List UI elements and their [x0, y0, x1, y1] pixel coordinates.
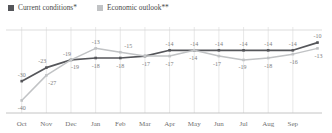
data-point-label: -17 [142, 61, 150, 67]
x-tick-label: Jul [239, 120, 247, 128]
data-point-label: -19 [71, 64, 79, 70]
x-tick-label: Sep [288, 120, 299, 128]
series-marker [316, 47, 319, 50]
x-tick-label: Apr [164, 120, 176, 128]
series-marker [119, 51, 122, 54]
x-tick-label: Oct [17, 120, 27, 128]
data-point-label: -19 [239, 64, 247, 70]
series-marker [20, 80, 23, 83]
series-marker [168, 49, 171, 52]
data-point-label: -23 [38, 58, 46, 64]
x-tick-label: Feb [115, 120, 126, 128]
data-point-label: -18 [92, 63, 100, 69]
x-tick-label: May [188, 120, 201, 128]
series-marker [119, 57, 122, 60]
data-point-label: -30 [18, 72, 26, 78]
data-point-label: -14 [215, 41, 223, 47]
data-point-label: -13 [92, 39, 100, 45]
data-point-label: -14 [190, 41, 198, 47]
series-marker [144, 55, 147, 58]
series-marker [292, 49, 295, 52]
data-point-label: -18 [264, 63, 272, 69]
data-point-label: -18 [116, 63, 124, 69]
data-point-label: -17 [166, 61, 174, 67]
x-tick-label: Aug [262, 120, 275, 128]
data-point-label: -40 [18, 105, 26, 111]
series-marker [193, 49, 196, 52]
series-marker [292, 53, 295, 56]
data-point-label: -14 [289, 41, 297, 47]
series-marker [168, 55, 171, 58]
x-tick-label: Dec [65, 120, 76, 128]
x-tick-label: Mar [139, 120, 151, 128]
series-marker [20, 99, 23, 102]
gridlines [22, 27, 293, 113]
series-marker [267, 49, 270, 52]
data-point-label: -14 [166, 41, 174, 47]
series-marker [94, 57, 97, 60]
x-tick-label: Jun [214, 120, 224, 128]
series-marker [94, 47, 97, 50]
series-marker [45, 66, 48, 69]
series-marker [267, 57, 270, 60]
data-point-label: -13 [315, 53, 323, 59]
x-tick-label: Jan [91, 120, 101, 128]
line-chart-plot: -30-23-19-18-18-17-14-14-14-14-14-14-10-… [0, 0, 332, 133]
series-marker [70, 59, 73, 62]
data-point-label: -15 [124, 43, 132, 49]
series-marker [45, 74, 48, 77]
data-point-label: -14 [240, 41, 248, 47]
series-marker [218, 55, 221, 58]
data-point-label: -16 [290, 59, 298, 65]
data-point-label: -10 [314, 33, 322, 39]
data-point-label: -17 [213, 61, 221, 67]
x-axis-tick-labels: OctNovDecJanFebMarAprMayJunJulAugSep [17, 120, 299, 128]
data-point-label: -14 [264, 41, 272, 47]
data-point-label: -19 [63, 51, 71, 57]
series-marker [242, 59, 245, 62]
series-marker [242, 49, 245, 52]
data-labels: -30-23-19-18-18-17-14-14-14-14-14-14-10-… [18, 33, 323, 111]
chart-container: Current conditions* Economic outlook** -… [0, 0, 332, 133]
data-point-label: -27 [48, 80, 56, 86]
series-marker [218, 49, 221, 52]
series-marker [316, 41, 319, 44]
data-point-label: -14 [189, 55, 197, 61]
x-tick-label: Nov [40, 120, 53, 128]
